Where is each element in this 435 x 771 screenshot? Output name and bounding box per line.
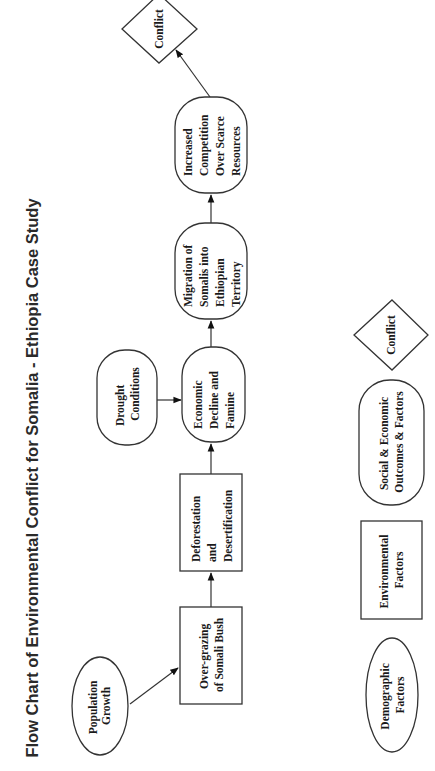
node-economic-decline: Economic Decline and Famine: [182, 347, 245, 442]
node-over-grazing: Over-grazing of Somali Bush: [180, 607, 242, 704]
legend-demographic: Demographic Factors: [366, 638, 418, 752]
legend-conflict: Conflict: [354, 300, 428, 370]
node-label: Conflict: [153, 9, 165, 49]
node-migration: Migration of Somalis into Ethiopian Terr…: [175, 223, 247, 319]
edge-competition-to-conflict: [176, 50, 210, 97]
node-population-growth: Population Growth: [72, 657, 128, 755]
flow-chart: Flow Chart of Environmental Conflict for…: [0, 0, 435, 771]
legend-environmental: Environmental Factors: [361, 521, 422, 619]
edge-population-to-overgrazing: [130, 668, 178, 704]
node-increased-competition: Increased Competition Over Scarce Resour…: [175, 97, 247, 193]
chart-title: Flow Chart of Environmental Conflict for…: [23, 198, 41, 758]
node-deforestation: Deforestation and Desertification: [180, 474, 242, 571]
node-conflict: Conflict: [122, 0, 197, 63]
node-drought-conditions: Drought Conditions: [97, 350, 157, 445]
legend: Conflict Social & Economic Outcomes & Fa…: [354, 300, 428, 752]
legend-label: Conflict: [385, 315, 397, 355]
legend-social-economic: Social & Economic Outcomes & Factors: [359, 380, 424, 505]
